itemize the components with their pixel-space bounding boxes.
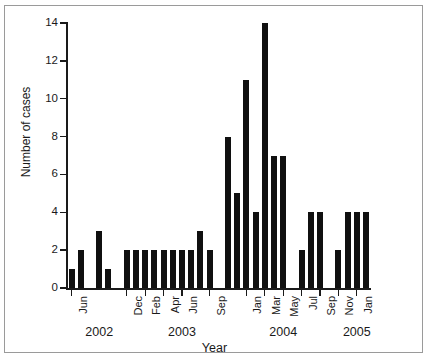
bar xyxy=(271,156,277,289)
y-axis-tick-label-text: 4 xyxy=(34,206,58,218)
bar xyxy=(105,269,111,288)
bar xyxy=(234,193,240,288)
x-axis-tick xyxy=(338,290,339,296)
x-axis-year-label: 2003 xyxy=(162,325,202,339)
bar xyxy=(262,23,268,288)
bar xyxy=(161,250,167,288)
x-axis-year-label: 2004 xyxy=(263,325,303,339)
bar xyxy=(188,250,194,288)
bar xyxy=(179,250,185,288)
x-axis-tick-label: Jun xyxy=(187,296,199,314)
y-axis-tick xyxy=(60,22,66,23)
y-axis-tick-label: 6 xyxy=(30,168,58,180)
x-axis-tick-label: Sep xyxy=(215,296,227,316)
y-axis-tick-label: 2 xyxy=(30,244,58,256)
y-axis-tick-label-text: 2 xyxy=(34,244,58,256)
x-axis-tick xyxy=(71,290,72,296)
x-axis-tick-label: Nov xyxy=(343,296,355,316)
y-axis-line xyxy=(66,22,68,289)
x-axis-tick-label: Dec xyxy=(132,296,144,316)
y-axis-tick-label-text: 0 xyxy=(34,282,58,294)
bar xyxy=(253,212,259,288)
x-axis-tick xyxy=(246,290,247,296)
x-axis-tick-label: Jul xyxy=(307,296,319,310)
x-axis-tick-label: Sep xyxy=(325,296,337,316)
bar xyxy=(225,137,231,288)
bar xyxy=(280,156,286,289)
y-axis-tick-label: 8 xyxy=(30,131,58,143)
x-axis-tick xyxy=(181,290,182,296)
x-axis-tick xyxy=(283,290,284,296)
x-axis-tick xyxy=(356,290,357,296)
x-axis-tick-label: Mar xyxy=(270,296,282,315)
bar xyxy=(308,212,314,288)
bar xyxy=(69,269,75,288)
y-axis-tick xyxy=(60,136,66,137)
x-axis-tick-label: Jan xyxy=(362,296,374,314)
y-axis-title: Number of cases xyxy=(19,72,33,192)
y-axis-tick xyxy=(60,249,66,250)
bar xyxy=(354,212,360,288)
y-axis-tick-label-text: 12 xyxy=(34,55,58,67)
x-axis-tick xyxy=(145,290,146,296)
bar xyxy=(170,250,176,288)
figure-page: 02468101214 Number of cases JunDecFebApr… xyxy=(0,0,429,361)
bar xyxy=(207,250,213,288)
y-axis-tick xyxy=(60,287,66,288)
bar xyxy=(243,80,249,288)
y-axis-tick-label: 4 xyxy=(30,206,58,218)
x-axis-tick xyxy=(264,290,265,296)
bar xyxy=(78,250,84,288)
bar xyxy=(197,231,203,288)
x-axis-tick-label: Apr xyxy=(169,296,181,313)
y-axis-tick-label-text: 14 xyxy=(34,17,58,29)
bar xyxy=(299,250,305,288)
x-axis-tick-label: Jan xyxy=(251,296,263,314)
bar xyxy=(363,212,369,288)
x-axis-tick xyxy=(319,290,320,296)
y-axis-tick-label: 12 xyxy=(30,55,58,67)
bar xyxy=(345,212,351,288)
x-axis-tick xyxy=(209,290,210,296)
x-axis-tick-label: Jun xyxy=(77,296,89,314)
bar xyxy=(335,250,341,288)
x-axis-title: Year xyxy=(0,341,429,355)
bar xyxy=(151,250,157,288)
bar xyxy=(317,212,323,288)
y-axis-tick-label-text: 8 xyxy=(34,131,58,143)
bar xyxy=(124,250,130,288)
y-axis-tick-label: 0 xyxy=(30,282,58,294)
x-axis-tick xyxy=(301,290,302,296)
y-axis-tick xyxy=(60,212,66,213)
y-axis-tick-label-text: 6 xyxy=(34,168,58,180)
y-axis-tick-label: 10 xyxy=(30,93,58,105)
bar-chart-plot: 02468101214 Number of cases JunDecFebApr… xyxy=(0,0,429,361)
x-axis-tick-label: Feb xyxy=(150,296,162,315)
bar xyxy=(96,231,102,288)
x-axis-tick xyxy=(163,290,164,296)
x-axis-line xyxy=(66,288,371,290)
y-axis-tick-label: 14 xyxy=(30,17,58,29)
y-axis-tick xyxy=(60,98,66,99)
y-axis-tick xyxy=(60,60,66,61)
y-axis-tick xyxy=(60,174,66,175)
x-axis-year-label: 2005 xyxy=(337,325,377,339)
x-axis-tick xyxy=(126,290,127,296)
bar xyxy=(133,250,139,288)
bar xyxy=(142,250,148,288)
x-axis-year-label: 2002 xyxy=(79,325,119,339)
x-axis-tick-label: May xyxy=(288,296,300,317)
y-axis-tick-label-text: 10 xyxy=(34,93,58,105)
